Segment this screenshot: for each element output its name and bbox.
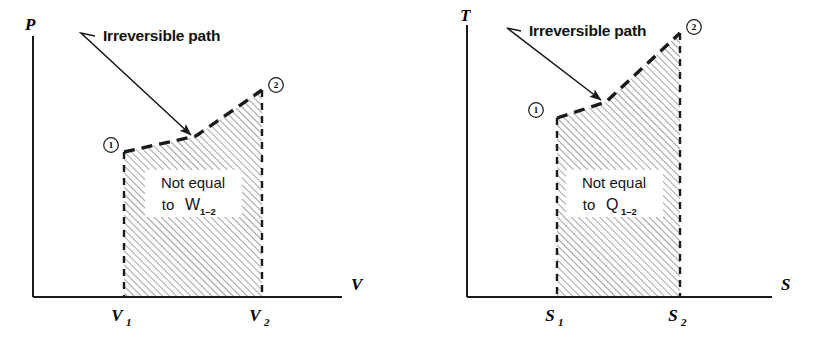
ts-y-axis-label: T (460, 6, 471, 25)
ts-marker-2-label: 2 (692, 22, 697, 32)
pv-annotation-leader (81, 33, 191, 135)
ts-x-tick-1-subscript: 1 (558, 316, 564, 328)
pv-annotation-label: Irreversible path (103, 27, 220, 44)
pv-diagram: 1 2 Irreversible path P V V 1 V (24, 15, 364, 328)
pv-x-tick-1: V 1 (111, 306, 131, 328)
pv-region-label-line1: Not equal (161, 174, 225, 191)
pv-state-marker-2: 2 (269, 78, 284, 93)
ts-x-tick-2-subscript: 2 (680, 316, 687, 328)
ts-state-marker-1: 1 (529, 103, 544, 118)
thermodynamics-figure: 1 2 Irreversible path P V V 1 V (0, 0, 815, 343)
ts-shaded-region (557, 33, 680, 297)
ts-x-axis-label: S (781, 275, 790, 294)
pv-region-label-symbol: W (185, 196, 201, 213)
pv-region-label-subscript: 1–2 (200, 206, 216, 217)
ts-region-label-prefix: to (583, 196, 596, 213)
ts-marker-1-label: 1 (534, 105, 539, 115)
ts-annotation-label: Irreversible path (529, 22, 646, 39)
pv-x-axis-label: V (351, 275, 364, 294)
ts-region-label-line1: Not equal (582, 174, 646, 191)
ts-region-label-symbol: Q (606, 196, 618, 213)
figure-root: 1 2 Irreversible path P V V 1 V (0, 0, 815, 343)
pv-marker-2-label: 2 (274, 80, 279, 90)
pv-region-label-prefix: to (162, 196, 175, 213)
pv-x-tick-2-subscript: 2 (263, 316, 270, 328)
pv-y-axis-label: P (24, 15, 36, 34)
pv-region-label: Not equal to W 1–2 (145, 170, 242, 217)
ts-state-marker-2: 2 (687, 20, 702, 35)
pv-x-tick-2-symbol: V (249, 306, 262, 325)
ts-diagram: 1 2 Irreversible path T S S 1 S (460, 6, 790, 328)
ts-x-tick-1-symbol: S (545, 306, 554, 325)
pv-x-tick-1-symbol: V (111, 306, 124, 325)
ts-region-label-subscript: 1–2 (621, 206, 637, 217)
ts-region-label: Not equal to Q 1–2 (566, 170, 663, 217)
ts-x-tick-2: S 2 (668, 306, 687, 328)
ts-x-tick-2-symbol: S (668, 306, 677, 325)
pv-x-tick-2: V 2 (249, 306, 270, 328)
pv-marker-1-label: 1 (109, 140, 114, 150)
pv-state-marker-1: 1 (104, 138, 119, 153)
pv-x-tick-1-subscript: 1 (126, 316, 132, 328)
ts-x-tick-1: S 1 (545, 306, 563, 328)
